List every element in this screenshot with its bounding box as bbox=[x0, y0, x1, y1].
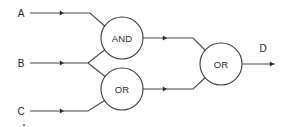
wire-or-gate-lower-output bbox=[143, 76, 207, 89]
input-label-b: B bbox=[18, 58, 25, 69]
speck-below-c-icon bbox=[23, 124, 25, 126]
gate-and[interactable]: AND bbox=[101, 17, 143, 59]
arrowhead-icon-input-b bbox=[60, 60, 64, 65]
logic-circuit-diagram: AND OR OR A B C D bbox=[0, 0, 285, 127]
or-gate-output-label: OR bbox=[214, 59, 229, 70]
output-label-d: D bbox=[259, 43, 266, 54]
arrowhead-icon-and-output bbox=[163, 35, 167, 40]
wire-input-a bbox=[30, 13, 107, 28]
arrowhead-icon-or-lower-output bbox=[163, 86, 167, 91]
and-gate-label: AND bbox=[112, 33, 133, 44]
circuit-svg-canvas: AND OR OR A B C D bbox=[0, 0, 285, 127]
wire-and-gate-output bbox=[143, 38, 207, 52]
gate-or-output[interactable]: OR bbox=[200, 43, 242, 85]
arrowhead-icon-input-c bbox=[60, 108, 64, 113]
arrowhead-icon-output-d bbox=[270, 61, 274, 66]
gate-or-lower[interactable]: OR bbox=[101, 68, 143, 110]
arrowhead-icon-input-a bbox=[60, 10, 64, 15]
or-gate-lower-label: OR bbox=[115, 84, 130, 95]
input-label-c: C bbox=[17, 106, 24, 117]
input-label-a: A bbox=[18, 8, 25, 19]
artifact-layer bbox=[23, 124, 25, 126]
wire-input-c bbox=[30, 99, 107, 111]
wire-b-branch-to-and-gate bbox=[88, 48, 107, 63]
wire-b-branch-to-or-gate bbox=[88, 63, 107, 78]
